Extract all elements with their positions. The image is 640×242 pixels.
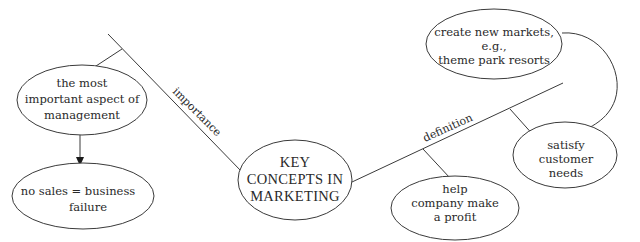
concept-map-diagram: importance definition the most important… bbox=[0, 0, 640, 242]
node-line: the most bbox=[57, 76, 108, 90]
node-line: needs bbox=[549, 166, 583, 180]
central-line: KEY bbox=[280, 154, 311, 170]
node-line: failure bbox=[69, 200, 107, 214]
node-line: company make bbox=[411, 196, 499, 210]
importance-edge-label: importance bbox=[170, 85, 224, 139]
help-profit-branch-line bbox=[423, 149, 450, 178]
node-line: satisfy bbox=[547, 138, 585, 152]
node-line: e.g., bbox=[481, 39, 506, 53]
central-line: CONCEPTS IN bbox=[247, 171, 344, 187]
node-line: theme park resorts bbox=[438, 53, 550, 67]
node-line: create new markets, bbox=[434, 25, 554, 39]
node-line: help bbox=[442, 182, 467, 196]
node-line: a profit bbox=[434, 210, 477, 224]
node-line: customer bbox=[539, 152, 594, 166]
central-line: MARKETING bbox=[250, 188, 340, 204]
node-line: important aspect of bbox=[25, 92, 140, 106]
node-line: management bbox=[44, 108, 120, 122]
create-markets-curve bbox=[562, 33, 617, 134]
node-line: no sales = business bbox=[21, 184, 136, 198]
most-important-branch-line bbox=[96, 49, 122, 66]
